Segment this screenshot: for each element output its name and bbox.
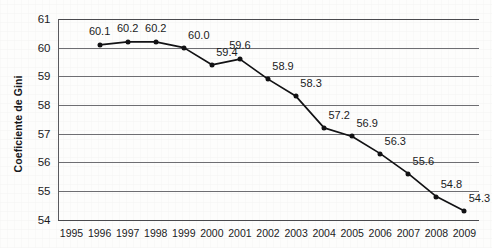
data-label-2002: 58.9 xyxy=(272,60,293,72)
data-label-2009: 54.3 xyxy=(469,192,490,204)
x-tick-1997: 1997 xyxy=(116,227,139,239)
data-label-2003: 58.3 xyxy=(300,77,321,89)
data-point-2002 xyxy=(266,77,271,82)
data-label-2008: 54.8 xyxy=(441,178,462,190)
x-tick-2008: 2008 xyxy=(425,227,448,239)
data-label-2005: 56.9 xyxy=(356,117,377,129)
data-point-2004 xyxy=(322,125,327,130)
data-point-1997 xyxy=(125,39,130,44)
data-point-2007 xyxy=(406,171,411,176)
data-label-2004: 57.2 xyxy=(328,109,349,121)
series-line-path xyxy=(0,0,492,248)
data-point-2001 xyxy=(237,57,242,62)
data-point-1999 xyxy=(181,45,186,50)
data-point-1998 xyxy=(153,39,158,44)
data-label-2001: 59.6 xyxy=(229,39,250,51)
data-label-1998: 60.2 xyxy=(145,22,166,34)
data-point-2006 xyxy=(378,151,383,156)
x-tick-2009: 2009 xyxy=(453,227,476,239)
x-tick-1996: 1996 xyxy=(88,227,111,239)
x-tick-2004: 2004 xyxy=(312,227,335,239)
x-tick-2005: 2005 xyxy=(341,227,364,239)
x-tick-1999: 1999 xyxy=(172,227,195,239)
x-tick-2002: 2002 xyxy=(256,227,279,239)
data-point-1996 xyxy=(97,42,102,47)
data-label-2007: 55.6 xyxy=(413,155,434,167)
x-tick-2003: 2003 xyxy=(284,227,307,239)
gini-coefficient-line-chart: Coeficiente de Gini 5455565758596061 60.… xyxy=(0,0,492,248)
x-tick-2001: 2001 xyxy=(228,227,251,239)
x-tick-2006: 2006 xyxy=(369,227,392,239)
data-label-1996: 60.1 xyxy=(89,25,110,37)
x-tick-2007: 2007 xyxy=(397,227,420,239)
data-point-2008 xyxy=(434,194,439,199)
x-tick-1998: 1998 xyxy=(144,227,167,239)
x-tick-1995: 1995 xyxy=(60,227,83,239)
data-point-2005 xyxy=(350,134,355,139)
data-label-1999: 60.0 xyxy=(188,29,209,41)
data-point-2000 xyxy=(209,62,214,67)
data-point-2009 xyxy=(462,208,467,213)
x-tick-2000: 2000 xyxy=(200,227,223,239)
data-label-2006: 56.3 xyxy=(385,135,406,147)
data-point-2003 xyxy=(294,94,299,99)
data-label-1997: 60.2 xyxy=(117,22,138,34)
